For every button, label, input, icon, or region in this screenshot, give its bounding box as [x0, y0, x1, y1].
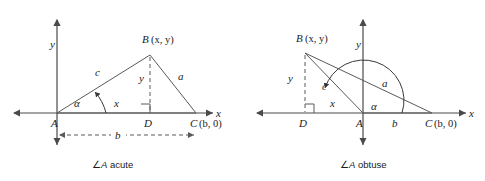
side-x-label-obtuse: x: [329, 97, 335, 109]
side-c-label-acute: c: [95, 66, 100, 78]
vertex-d-label-obtuse: D: [298, 117, 307, 129]
caption-obtuse: ∠A obtuse: [340, 159, 387, 170]
side-a-label-obtuse: a: [382, 77, 388, 89]
caption-angle-symbol-obtuse: ∠: [340, 159, 349, 170]
panel-obtuse: y x B (x, y) D A C (b, 0) y c a x b α ∠A…: [257, 20, 474, 170]
side-x-label-acute: x: [113, 97, 119, 109]
vertex-b-coord-obtuse: (x, y): [305, 33, 328, 45]
angle-alpha-arc-acute: [95, 92, 106, 113]
vertex-b-label-obtuse: B: [296, 32, 303, 44]
right-angle-marker-acute: [141, 104, 150, 113]
side-a-label-acute: a: [178, 70, 184, 82]
vertex-c-label-obtuse: C: [425, 117, 433, 129]
side-c-label-obtuse: c: [322, 80, 327, 92]
angle-alpha-label-acute: α: [74, 97, 80, 109]
side-y-label-acute: y: [138, 72, 144, 84]
angle-alpha-label-obtuse: α: [371, 100, 377, 112]
side-b-label-obtuse: b: [392, 117, 398, 129]
geometry-figure: y x A B (x, y) D C (b, 0) c a y x b α ∠A…: [0, 0, 485, 181]
side-b-label-acute: b: [115, 129, 121, 141]
vertex-c-coord-obtuse: (b, 0): [434, 118, 457, 130]
y-axis-label-obtuse: y: [355, 38, 361, 50]
caption-acute: ∠A acute: [92, 159, 133, 170]
caption-angle-text-obtuse: obtuse: [355, 159, 386, 170]
y-axis-label-acute: y: [49, 38, 55, 50]
caption-angle-text-acute: acute: [107, 159, 133, 170]
side-y-label-obtuse: y: [287, 72, 293, 84]
panel-acute: y x A B (x, y) D C (b, 0) c a y x b α ∠A…: [14, 20, 222, 170]
vertex-b-label-acute: B: [142, 33, 149, 45]
caption-angle-symbol-acute: ∠: [92, 159, 101, 170]
caption-angle-letter-acute: A: [100, 159, 107, 170]
caption-angle-letter-obtuse: A: [348, 159, 355, 170]
vertex-a-label-acute: A: [50, 117, 58, 129]
right-angle-marker-obtuse: [305, 104, 314, 113]
x-axis-label-obtuse: x: [468, 107, 474, 119]
vertex-c-coord-acute: (b, 0): [199, 118, 222, 130]
vertex-b-coord-acute: (x, y): [151, 34, 174, 46]
vertex-a-label-obtuse: A: [355, 117, 363, 129]
diagram-canvas: y x A B (x, y) D C (b, 0) c a y x b α ∠A…: [0, 0, 485, 181]
vertex-c-label-acute: C: [190, 117, 198, 129]
vertex-d-label-acute: D: [143, 117, 152, 129]
